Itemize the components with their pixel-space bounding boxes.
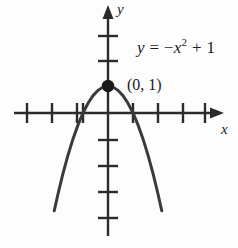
x-axis-label: x — [221, 121, 228, 138]
equation-variable-x: x — [174, 38, 182, 57]
y-axis-label: y — [117, 1, 124, 18]
vertex-point-marker — [102, 80, 114, 92]
equation-minus-sign: − — [164, 38, 174, 57]
graph-figure: y = −x2 + 1 (0, 1) y x — [0, 0, 238, 248]
equation-annotation: y = −x2 + 1 — [137, 38, 215, 58]
equation-constant-term: + 1 — [187, 38, 215, 57]
y-axis-arrowhead — [103, 5, 114, 19]
equation-lhs: y — [137, 38, 145, 57]
x-axis-arrowhead — [210, 108, 224, 119]
vertex-coordinate-label: (0, 1) — [127, 76, 162, 94]
equation-equals: = — [145, 38, 164, 57]
